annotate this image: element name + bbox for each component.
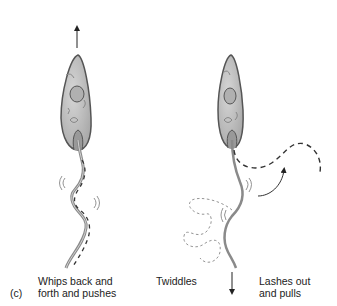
nucleus [224, 88, 236, 104]
left-caption-line1: Whips back and [38, 275, 113, 287]
flagella-diagram [0, 0, 337, 306]
right-organism [184, 55, 321, 292]
flagellum [225, 140, 243, 268]
right-caption-line1: Lashes out [259, 275, 310, 287]
curved-arrow-icon [258, 170, 284, 196]
twiddles-caption: Twiddles [156, 275, 197, 287]
right-caption-line2: and pulls [259, 287, 301, 299]
dashed-lash-trace [234, 143, 320, 172]
left-organism [60, 28, 100, 268]
nucleus [70, 86, 84, 102]
panel-label: (c) [10, 287, 22, 299]
left-caption-line2: forth and pushes [38, 287, 116, 299]
